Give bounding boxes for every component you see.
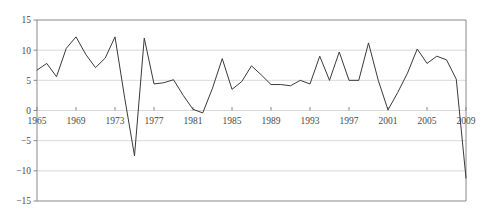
y-tick-label: 15 [22,15,32,25]
x-tick-label: 1985 [223,116,242,126]
chart-background [0,0,487,215]
x-tick-label: 2009 [457,116,476,126]
y-tick-label: 0 [26,106,31,116]
x-tick-label: 1973 [106,116,125,126]
x-tick-label: 2005 [418,116,437,126]
x-tick-label: 1997 [340,116,359,126]
x-tick-label: 2001 [379,116,398,126]
x-tick-label: 1969 [67,116,86,126]
y-tick-label: −5 [21,136,31,146]
x-tick-label: 1981 [184,116,203,126]
x-tick-label: 1977 [145,116,164,126]
y-tick-label: 5 [26,76,31,86]
line-chart: 151050−5−10−15 1965196919731977198119851… [0,0,487,215]
y-tick-label: −15 [16,196,31,206]
chart-plot-area: 151050−5−10−15 1965196919731977198119851… [0,0,487,215]
y-tick-label: −10 [16,166,31,176]
y-tick-label: 10 [22,46,32,56]
x-tick-label: 1993 [301,116,320,126]
x-tick-label: 1989 [262,116,281,126]
x-tick-label: 1965 [28,116,47,126]
